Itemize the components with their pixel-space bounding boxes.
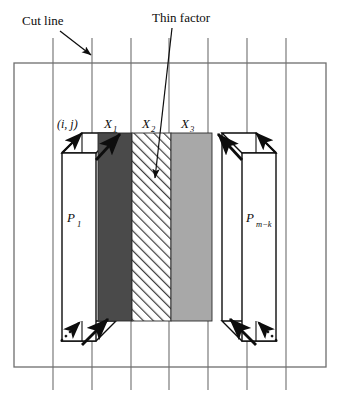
column-x3-label: X — [180, 116, 190, 131]
right-prism-subscript: m−k — [256, 219, 272, 229]
figure-canvas: P 1 P m−k X 1 X — [0, 0, 341, 394]
right-prism-label: P — [245, 210, 254, 225]
left-prism-subscript: 1 — [77, 219, 81, 229]
column-x1-subscript: 1 — [113, 124, 117, 134]
column-labels: X 1 X 2 X 3 — [103, 116, 194, 134]
left-prism-label: P — [66, 210, 75, 225]
column-x2-subscript: 2 — [151, 124, 156, 134]
cut-line-leader — [60, 31, 91, 55]
column-x3 — [171, 133, 212, 321]
column-x2-label: X — [141, 116, 151, 131]
cell-index-label: (i, j) — [57, 117, 78, 131]
right-prism: P m−k — [222, 133, 276, 341]
column-x3-subscript: 3 — [189, 124, 194, 134]
column-x1-label: X — [103, 116, 113, 131]
callout-cut-line: Cut line — [22, 13, 91, 55]
thin-factor-label: Thin factor — [152, 10, 211, 25]
column-x2 — [132, 133, 171, 321]
column-x1 — [98, 133, 132, 321]
cut-line-label: Cut line — [22, 13, 64, 28]
diagram-svg: P 1 P m−k X 1 X — [0, 0, 341, 394]
